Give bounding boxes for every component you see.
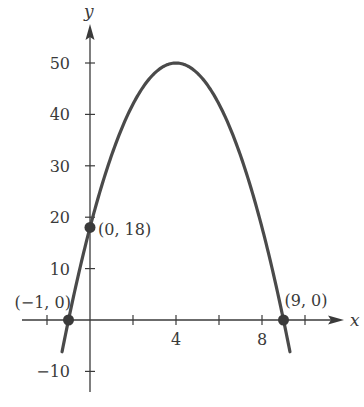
y-tick-label: 50 <box>50 54 70 73</box>
data-point-marker <box>85 222 96 233</box>
data-point-label: (−1, 0) <box>15 293 71 312</box>
axes <box>22 24 344 392</box>
parabola-chart: 485040302010−10 (−1, 0)(0, 18)(9, 0) x y <box>0 0 364 407</box>
x-tick-label: 4 <box>171 330 181 349</box>
data-point-label: (9, 0) <box>285 291 328 310</box>
parabola-curve <box>62 63 290 352</box>
x-tick-label: 8 <box>257 330 267 349</box>
data-point-label: (0, 18) <box>98 220 151 239</box>
y-tick-label: −10 <box>36 362 70 381</box>
y-tick-label: 30 <box>50 157 70 176</box>
y-tick-label: 10 <box>50 260 70 279</box>
y-axis-title: y <box>83 1 94 21</box>
x-axis-title: x <box>350 310 360 330</box>
tick-labels: 485040302010−10 <box>36 54 267 381</box>
y-tick-label: 20 <box>50 208 70 227</box>
data-point-marker <box>63 315 74 326</box>
axis-ticks <box>47 63 305 371</box>
data-point-marker <box>278 315 289 326</box>
y-tick-label: 40 <box>50 105 70 124</box>
